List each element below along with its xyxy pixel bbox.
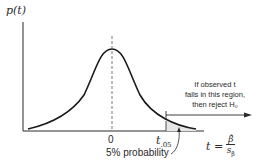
- tail-pointer-arrow: [171, 130, 179, 154]
- x-tick-zero: 0: [108, 134, 114, 145]
- rejection-annotation: If observed t falls in this region, then…: [176, 80, 254, 110]
- tail-probability-label: 5% probability: [106, 147, 169, 158]
- x-axis-label: t = β̂ sβ̂: [206, 134, 235, 159]
- y-axis-label: p(t): [6, 4, 26, 17]
